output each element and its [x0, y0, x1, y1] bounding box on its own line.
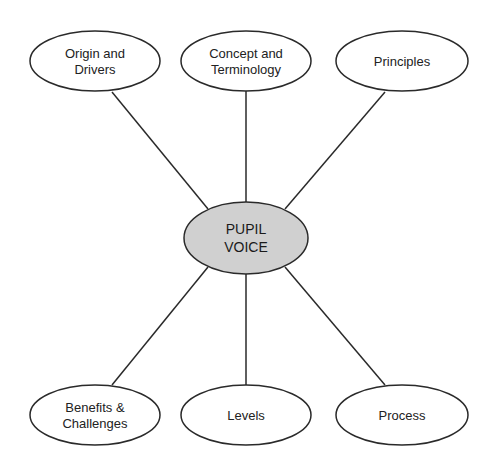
- node-label-line: Challenges: [62, 416, 128, 431]
- center-ellipse: [184, 202, 308, 274]
- node-label-line: Drivers: [74, 62, 116, 77]
- connector-principles: [285, 92, 385, 209]
- node-label-line: Levels: [227, 408, 265, 423]
- node-label-line: Concept and: [209, 46, 283, 61]
- node-label-line: VOICE: [224, 239, 268, 255]
- node-principles: Principles: [336, 31, 468, 91]
- node-ellipse: [30, 385, 160, 445]
- node-benefits: Benefits &Challenges: [30, 385, 160, 445]
- node-label-line: Origin and: [65, 46, 125, 61]
- node-process: Process: [336, 385, 468, 445]
- connector-benefits: [112, 267, 208, 385]
- node-label-line: Process: [379, 408, 426, 423]
- mind-map-diagram: Origin andDriversConcept andTerminologyP…: [0, 0, 494, 469]
- node-ellipse: [30, 31, 160, 91]
- connector-process: [285, 267, 385, 385]
- connector-origin: [112, 92, 208, 209]
- node-label-line: PUPIL: [226, 221, 267, 237]
- node-levels: Levels: [181, 385, 311, 445]
- center-node: PUPILVOICE: [184, 202, 308, 274]
- node-label-line: Principles: [374, 54, 431, 69]
- node-label-line: Benefits &: [65, 400, 125, 415]
- node-origin: Origin andDrivers: [30, 31, 160, 91]
- node-concept: Concept andTerminology: [181, 31, 311, 91]
- node-ellipse: [181, 31, 311, 91]
- node-label-line: Terminology: [211, 62, 282, 77]
